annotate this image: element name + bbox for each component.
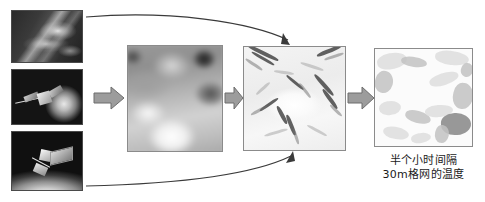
satellite-globe-photo [12, 70, 82, 124]
curve-bottom-arrowhead [286, 151, 295, 163]
arrow-fine-to-output [347, 85, 375, 111]
caption-line-2: 30m格网的温度 [374, 168, 473, 182]
fine-raster-texture [244, 47, 345, 150]
solar-panel-icon [48, 85, 64, 98]
output-caption: 半个小时间隔 30m格网的温度 [374, 154, 473, 182]
arrow-sources-to-coarse [93, 85, 125, 111]
satellite-earth-limb-photo [12, 132, 82, 190]
curve-top-source-to-fine [86, 15, 288, 40]
satellite-source-photo-limb [11, 131, 83, 191]
arrow-coarse-to-fine [224, 85, 244, 111]
output-raster-image [375, 49, 472, 146]
downscaled-output-raster [374, 48, 473, 147]
solar-panel-icon [50, 146, 73, 166]
figure-canvas: 半个小时间隔 30m格网的温度 [0, 0, 485, 202]
coarse-resolution-raster [127, 45, 223, 152]
satellite-source-photo-globe [11, 69, 83, 125]
caption-line-1: 半个小时间隔 [374, 154, 473, 168]
curve-top-arrowhead [281, 33, 290, 45]
coarse-raster-image [127, 45, 223, 152]
cloud-storm-photo [12, 11, 82, 62]
fine-resolution-raster [243, 46, 346, 151]
curve-bottom-source-to-fine [86, 156, 291, 186]
satellite-source-photo-cloud [11, 10, 83, 63]
